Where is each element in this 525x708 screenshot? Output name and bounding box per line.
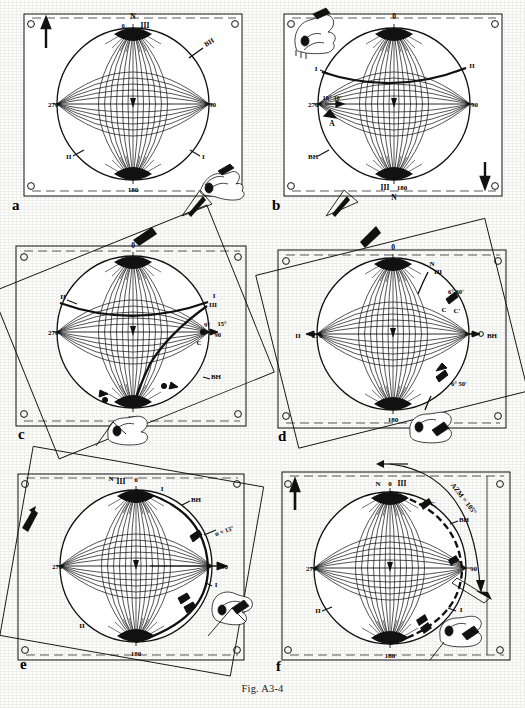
axis-iii-label-d: III — [434, 268, 442, 276]
net-label-top-degrees-a: 0 — [121, 22, 124, 29]
net-label-top-e: 0 — [134, 476, 138, 484]
angle-label-b: 18° 30' — [322, 94, 341, 101]
net-label-left-f: 270 — [306, 565, 317, 573]
net-label-top-c: 0 — [131, 241, 135, 250]
panel-f: 0 N III 270 90 180 AZM = 105° C BH A I I… — [262, 450, 525, 676]
axis-ii-label-d: II — [295, 332, 301, 340]
stereonet-c — [57, 256, 209, 408]
net-label-top-d: 0 — [391, 243, 395, 252]
bh-label-b: BH — [308, 153, 319, 161]
hand-icon-f — [440, 616, 482, 647]
bh-label-c: BH — [211, 373, 222, 381]
panel-a: N III 0 270 90 180 BH II I — [4, 4, 262, 216]
net-label-top-tertiary-e: III — [117, 477, 126, 486]
axis-ii-label-c: II — [60, 293, 66, 301]
alpha-angle-label-e: α = 13° — [214, 524, 235, 537]
net-label-right-f: 90 — [470, 565, 478, 573]
axis-ii-label-a: II — [66, 153, 72, 161]
bh-label-f: BH — [459, 516, 470, 524]
hand-base-line-f — [430, 642, 444, 660]
net-label-top-b: 0 — [392, 12, 396, 21]
point-c-label-c: C — [196, 339, 201, 347]
net-label-bottom-b: 180 — [397, 184, 408, 192]
point-c-prime-label-d: C' — [454, 307, 461, 315]
net-label-top-secondary-e: N — [108, 475, 113, 483]
panel-c: 0 270 90 180 II I III 9° 15° C BH — [0, 224, 262, 446]
point-c-label-d: C — [441, 306, 446, 314]
net-label-bottom-secondary-b: III — [381, 183, 390, 192]
angle-label-1-d: 6° 30' — [448, 288, 464, 295]
axis-i-label-f: I — [460, 606, 463, 614]
net-label-bottom-a: 180 — [128, 186, 139, 194]
point-c-label-f: C — [430, 500, 435, 508]
panel-d: 0 270 180 N III 6° 30' C C' II BH 6° 50'… — [262, 224, 525, 446]
panel-b: 0 270 90 180 III N I II BH 18° 30' A — [266, 4, 522, 216]
stereonet-f — [314, 492, 466, 644]
net-label-top-secondary-a: III — [141, 21, 150, 30]
angle-label-2-d: 6° 50' — [451, 380, 467, 387]
figure-page: N III 0 270 90 180 BH II I — [0, 0, 525, 708]
figure-caption: Fig. A3-4 — [0, 683, 525, 694]
north-arrow-e — [22, 506, 38, 532]
net-label-left-e: 270 — [52, 563, 63, 571]
net-label-bottom-tertiary-b: N — [391, 193, 397, 202]
axis-iii-label-c: III — [209, 301, 217, 309]
axis-i-label-a: I — [202, 153, 205, 161]
net-label-top-tertiary-f: III — [398, 479, 407, 488]
north-label-d: N — [429, 260, 434, 268]
axis-ii-label-f: II — [315, 607, 321, 615]
net-label-right-b: 90 — [471, 101, 479, 109]
point-a-label-b: A — [329, 119, 335, 128]
net-label-bottom-f: 180 — [385, 652, 396, 660]
axis-i-label-e: I — [161, 485, 164, 493]
net-label-left-b: 270 — [308, 101, 319, 109]
axis-ii-label-b: II — [469, 62, 475, 70]
panel-letter-a: a — [12, 197, 20, 214]
hand-icon-d — [410, 412, 452, 443]
axis-i-label-c: I — [213, 292, 216, 300]
panel-letter-b: b — [272, 197, 280, 214]
hand-icon-c — [108, 416, 148, 445]
bh-label-e: BH — [191, 496, 202, 504]
point-a-label-f: A — [455, 557, 460, 565]
panel-letter-e: e — [20, 656, 27, 673]
net-label-top-f: 0 — [388, 480, 392, 488]
net-label-top-a: N — [130, 12, 136, 21]
net-label-bottom-d: 180 — [388, 416, 399, 424]
net-label-bottom-e: 180 — [131, 650, 142, 658]
axis-i-label-b: I — [315, 65, 318, 73]
net-label-right-c: 90 — [215, 331, 222, 338]
panel-e: 0 N III 270 90 180 I BH α = 13° I II — [0, 450, 262, 676]
net-label-right-a: 90 — [209, 101, 217, 109]
angle-label-2-c: 15° — [217, 320, 227, 327]
net-label-right-e: 90 — [221, 563, 229, 571]
panel-letter-d: d — [278, 428, 286, 445]
axis-i-label-2-e: I — [215, 581, 218, 589]
net-label-left-c: 270 — [48, 329, 59, 337]
bh-label-d: BH — [487, 332, 498, 340]
net-label-top-secondary-f: N — [375, 480, 380, 488]
panel-letter-c: c — [18, 426, 25, 443]
net-label-left-a: 270 — [48, 101, 59, 109]
stereonet-d — [317, 258, 469, 410]
north-arrow-f — [291, 480, 299, 510]
axis-ii-label-e: II — [79, 622, 85, 630]
stereonet-a — [57, 28, 209, 180]
panel-letter-f: f — [276, 658, 281, 675]
net-label-left-d: 270 — [312, 332, 323, 340]
angle-label-1-c: 9° — [204, 321, 210, 328]
